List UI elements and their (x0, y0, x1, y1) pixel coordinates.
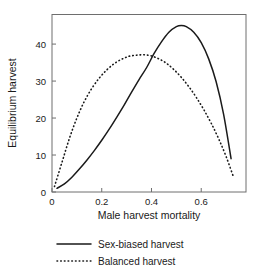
x-tick-label: 0 (49, 196, 54, 207)
x-axis-title: Male harvest mortality (98, 209, 201, 221)
y-tick-label: 30 (35, 76, 46, 87)
x-tick-label: 0.2 (95, 196, 108, 207)
y-tick-label: 0 (41, 187, 46, 198)
legend-label-balanced-harvest: Balanced harvest (98, 256, 175, 267)
x-tick-label: 0.4 (145, 196, 158, 207)
x-tick-label: 0.6 (195, 196, 208, 207)
legend-label-sex-biased-harvest: Sex-biased harvest (98, 239, 184, 250)
y-tick-label: 20 (35, 113, 46, 124)
y-axis-title: Equilibrium harvest (6, 58, 18, 147)
y-tick-label: 10 (35, 150, 46, 161)
chart-svg: 00.20.40.6 010203040 Male harvest mortal… (0, 0, 262, 272)
chart-figure: 00.20.40.6 010203040 Male harvest mortal… (0, 0, 262, 272)
y-tick-label: 40 (35, 39, 46, 50)
